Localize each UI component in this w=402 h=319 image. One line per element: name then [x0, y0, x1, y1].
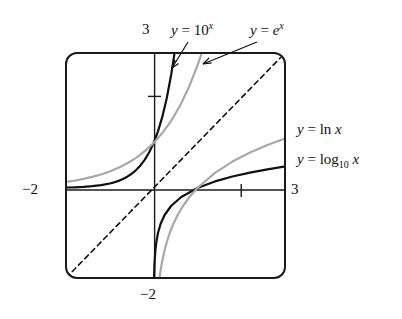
curve-label-ln-y: y [297, 121, 304, 137]
y-axis-label-3: 3 [142, 22, 150, 37]
math-figure: 3 y = 10x y = ex y = ln x y = log10 x −2… [0, 0, 402, 319]
x-axis-label-3: 3 [291, 182, 299, 197]
curve-label-expe-eq: = [260, 22, 268, 38]
curve-label-ln: y = ln x [297, 122, 342, 137]
curve-label-log10-arg: x [353, 151, 360, 167]
curve-label-log10-fn: log [320, 151, 339, 167]
curve-label-ln-eq: = [307, 121, 315, 137]
x-axis-label-minus-2: −2 [22, 182, 38, 197]
curve-label-exp10: y = 10x [171, 21, 213, 38]
curve-label-expe-exp: x [279, 20, 283, 31]
curve-label-log10: y = log10 x [297, 152, 359, 170]
curve-label-exp10-y: y [171, 22, 178, 38]
curve-label-exp10-base: 10 [194, 22, 209, 38]
curve-label-log10-eq: = [307, 151, 315, 167]
curve-label-expe-y: y [250, 22, 257, 38]
curve-label-exp10-exp: x [209, 20, 213, 31]
curve-label-ln-arg: x [335, 121, 342, 137]
curve-label-exp10-eq: = [181, 22, 189, 38]
curve-label-log10-sub: 10 [339, 159, 349, 170]
curve-label-ln-fn: ln [320, 121, 332, 137]
curve-label-expe: y = ex [250, 21, 284, 38]
y-axis-label-minus-2: −2 [140, 287, 156, 302]
curve-label-log10-y: y [297, 151, 304, 167]
